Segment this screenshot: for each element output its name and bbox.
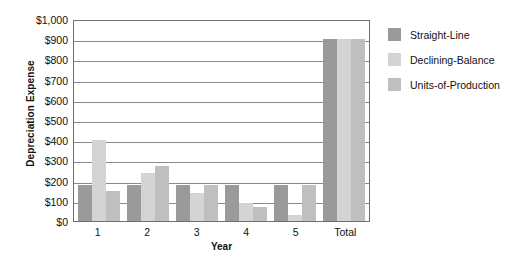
bar[interactable] <box>225 185 239 221</box>
plot-area <box>73 20 370 222</box>
x-tick-label: 3 <box>172 226 222 240</box>
bar[interactable] <box>155 166 169 221</box>
bar[interactable] <box>92 140 106 221</box>
x-tick-label: 4 <box>222 226 272 240</box>
x-axis-title: Year <box>73 241 370 252</box>
legend-swatch-icon <box>388 28 401 41</box>
y-axis-tick-labels: $0$100$200$300$400$500$600$700$800$900$1… <box>0 20 68 222</box>
bar-group <box>74 21 123 221</box>
legend-swatch-icon <box>388 53 401 66</box>
bar[interactable] <box>323 39 337 221</box>
bar-group <box>123 21 172 221</box>
bar[interactable] <box>302 185 316 221</box>
bar-group <box>172 21 221 221</box>
bar[interactable] <box>190 193 204 221</box>
y-tick-label: $500 <box>0 116 68 126</box>
bar[interactable] <box>351 39 365 221</box>
x-tick-label: 1 <box>73 226 123 240</box>
legend-item[interactable]: Declining-Balance <box>388 47 528 72</box>
x-tick-label: Total <box>321 226 371 240</box>
y-tick-label: $1,000 <box>0 15 68 25</box>
bar[interactable] <box>78 185 92 221</box>
legend-swatch-icon <box>388 78 401 91</box>
legend-label: Declining-Balance <box>410 54 495 66</box>
bar[interactable] <box>106 191 120 221</box>
bar-group <box>320 21 369 221</box>
legend-label: Straight-Line <box>410 29 470 41</box>
x-tick-label: 5 <box>271 226 321 240</box>
x-tick-label: 2 <box>123 226 173 240</box>
bar[interactable] <box>127 185 141 221</box>
y-tick-label: $900 <box>0 35 68 45</box>
y-tick-label: $700 <box>0 76 68 86</box>
bar[interactable] <box>141 173 155 221</box>
legend-label: Units-of-Production <box>410 79 500 91</box>
bar[interactable] <box>204 185 218 221</box>
bar[interactable] <box>239 203 253 221</box>
legend-item[interactable]: Straight-Line <box>388 22 528 47</box>
bar-chart: Depreciation Expense $0$100$200$300$400$… <box>0 0 530 271</box>
y-tick-label: $200 <box>0 177 68 187</box>
y-tick-label: $0 <box>0 217 68 227</box>
y-tick-label: $600 <box>0 96 68 106</box>
bar-group <box>271 21 320 221</box>
bar-groups <box>74 21 369 221</box>
y-tick-label: $300 <box>0 156 68 166</box>
y-tick-label: $100 <box>0 197 68 207</box>
bar-group <box>222 21 271 221</box>
y-tick-label: $400 <box>0 136 68 146</box>
y-tick-label: $800 <box>0 55 68 65</box>
legend-item[interactable]: Units-of-Production <box>388 72 528 97</box>
legend: Straight-LineDeclining-BalanceUnits-of-P… <box>388 22 528 97</box>
bar[interactable] <box>253 207 267 221</box>
bar[interactable] <box>176 185 190 221</box>
bar[interactable] <box>337 39 351 221</box>
x-axis-tick-labels: 12345Total <box>73 226 370 240</box>
bar[interactable] <box>274 185 288 221</box>
bar[interactable] <box>288 215 302 221</box>
